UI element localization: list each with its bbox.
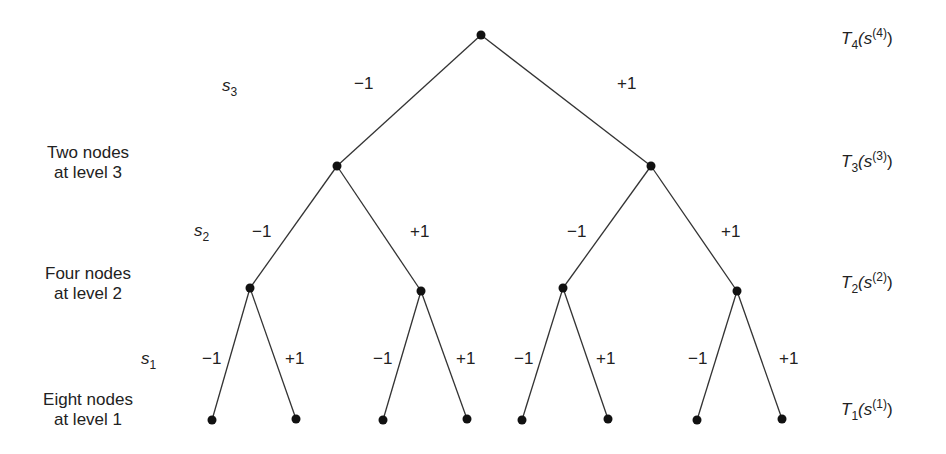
- edge-label-s2-plus: +1: [410, 222, 429, 242]
- t1-label: T1(s(1)): [841, 400, 893, 421]
- edge-label-s3-plus: +1: [617, 74, 636, 94]
- tree-node: [379, 416, 388, 425]
- tree-node: [477, 31, 486, 40]
- tree-node: [333, 162, 342, 171]
- tree-edge: [737, 291, 782, 419]
- tree-node: [733, 287, 742, 296]
- level1-description: Eight nodes at level 1: [8, 390, 168, 430]
- edge-label-s1-plus: +1: [596, 349, 615, 369]
- tree-node: [647, 162, 656, 171]
- tree-node: [208, 416, 217, 425]
- edge-label-s1-minus: −1: [514, 349, 533, 369]
- tree-edge: [337, 166, 421, 291]
- tree-node: [559, 284, 568, 293]
- level2-description: Four nodes at level 2: [8, 264, 168, 304]
- variable-s2-label: s2: [194, 221, 209, 242]
- tree-edge: [337, 35, 481, 166]
- t3-label: T3(s(3)): [841, 152, 893, 173]
- edge-label-s2-minus: −1: [567, 222, 586, 242]
- tree-node: [463, 415, 472, 424]
- t2-label: T2(s(2)): [841, 273, 893, 294]
- level3-description: Two nodes at level 3: [8, 143, 168, 183]
- edge-label-s1-plus: +1: [779, 349, 798, 369]
- t4-label: T4(s(4)): [841, 29, 893, 50]
- tree-node: [292, 415, 301, 424]
- edge-label-s2-minus: −1: [252, 222, 271, 242]
- variable-s3-label: s3: [222, 76, 237, 97]
- tree-node: [417, 287, 426, 296]
- tree-edge: [481, 35, 651, 166]
- edge-label-s1-minus: −1: [202, 349, 221, 369]
- binary-tree-diagram: [0, 0, 946, 454]
- variable-s1-label: s1: [141, 349, 156, 370]
- edge-label-s3-minus: −1: [354, 74, 373, 94]
- edge-label-s2-plus: +1: [721, 222, 740, 242]
- tree-node: [518, 416, 527, 425]
- edge-label-s1-plus: +1: [456, 349, 475, 369]
- edge-label-s1-plus: +1: [285, 349, 304, 369]
- edge-label-s1-minus: −1: [688, 349, 707, 369]
- edge-label-s1-minus: −1: [373, 349, 392, 369]
- tree-node: [778, 415, 787, 424]
- tree-node: [693, 416, 702, 425]
- tree-node: [604, 415, 613, 424]
- tree-node: [246, 284, 255, 293]
